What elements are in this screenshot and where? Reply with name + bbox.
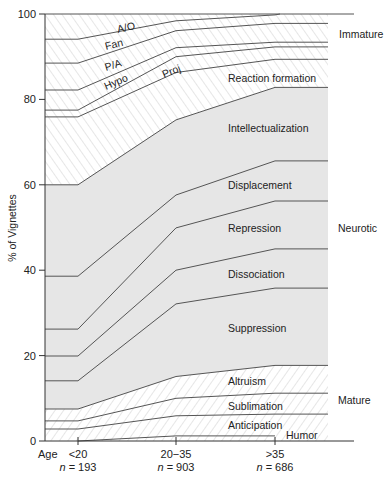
label-displacement: Displacement — [228, 179, 292, 191]
y-axis-title: % of Vignettes — [6, 194, 18, 262]
defense-mechanisms-stacked-area-chart: 020406080100 % of Vignettes <20n= 19320−… — [0, 0, 388, 481]
y-axis: 020406080100 % of Vignettes — [6, 8, 45, 447]
y-tick-label: 60 — [24, 179, 36, 191]
y-tick-label: 100 — [18, 8, 36, 20]
x-axis: <20n= 19320−35n= 903>35n= 686 Age — [38, 437, 354, 473]
group-label-immature: Immature — [339, 28, 384, 40]
sample-size-label: n= 193 — [60, 461, 97, 473]
y-tick-label: 20 — [24, 350, 36, 362]
group-label-neurotic: Neurotic — [338, 222, 377, 234]
label-intellectualization: Intellectualization — [228, 122, 309, 134]
group-labels: Immature Neurotic Mature — [338, 28, 384, 406]
n-value: = 193 — [69, 461, 97, 473]
label-reaction-formation: Reaction formation — [228, 72, 316, 84]
n-value: = 903 — [167, 461, 195, 473]
x-tick-label: >35 — [266, 448, 285, 460]
label-suppression: Suppression — [228, 322, 287, 334]
x-axis-title: Age — [38, 448, 58, 460]
label-altruism: Altruism — [228, 375, 266, 387]
n-symbol: n — [158, 461, 164, 473]
y-tick-label: 40 — [24, 264, 36, 276]
y-tick-label: 0 — [30, 435, 36, 447]
n-value: = 686 — [266, 461, 294, 473]
y-tick-label: 80 — [24, 93, 36, 105]
label-humor: Humor — [286, 429, 318, 441]
label-sublimation: Sublimation — [228, 400, 283, 412]
sample-size-label: n= 686 — [257, 461, 294, 473]
x-tick-label: <20 — [69, 448, 88, 460]
n-symbol: n — [257, 461, 263, 473]
x-tick-label: 20−35 — [161, 448, 192, 460]
label-dissociation: Dissociation — [228, 268, 285, 280]
label-repression: Repression — [228, 222, 281, 234]
n-symbol: n — [60, 461, 66, 473]
group-label-mature: Mature — [338, 394, 371, 406]
sample-size-label: n= 903 — [158, 461, 195, 473]
label-anticipation: Anticipation — [228, 419, 282, 431]
